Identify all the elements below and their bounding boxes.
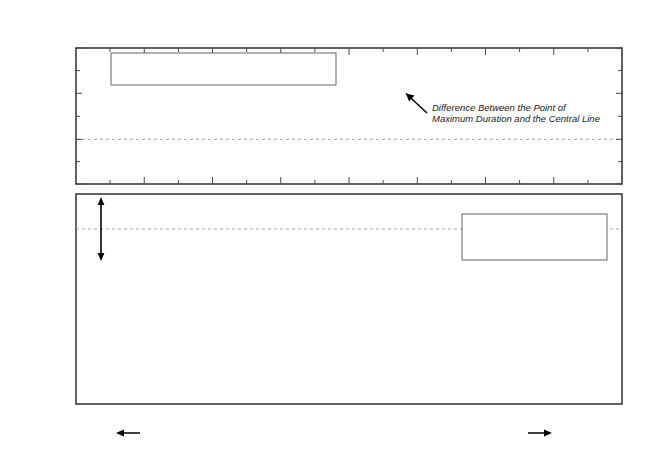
eclipse-duration-figure: Difference Between the Point of Maximum … bbox=[0, 0, 650, 458]
west-arrow bbox=[116, 430, 140, 437]
top-annotation-arrow bbox=[406, 94, 427, 114]
top-chart: Difference Between the Point of Maximum … bbox=[76, 48, 622, 184]
top-annotation-line2: Maximum Duration and the Central Line bbox=[432, 113, 600, 124]
figure-panel: Difference Between the Point of Maximum … bbox=[0, 0, 650, 458]
top-title-box bbox=[111, 53, 336, 85]
bottom-chart bbox=[76, 194, 622, 436]
bottom-title-box bbox=[462, 214, 607, 260]
north-south-arrows bbox=[98, 197, 105, 261]
east-arrow bbox=[528, 430, 552, 437]
top-annotation-line1: Difference Between the Point of bbox=[432, 102, 567, 113]
